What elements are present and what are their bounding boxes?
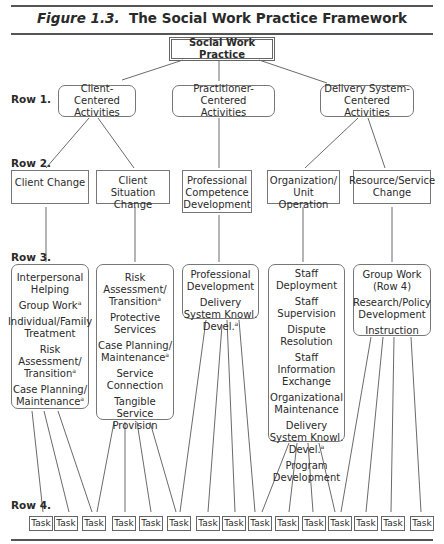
node-line: Delivery System-: [324, 83, 410, 95]
task-box: Task: [196, 516, 220, 531]
activity-item: Staff Deployment: [269, 268, 344, 292]
activity-item: Organizational Maintenance: [269, 392, 344, 416]
node-line: Centered Activities: [321, 95, 413, 119]
node-delivery-system-centered-activities: Delivery System- Centered Activities: [320, 85, 414, 117]
node-line: Client Situation: [97, 175, 169, 199]
row-label-2: Row 2.: [11, 157, 51, 169]
node-resource-service-change: Resource/Service Change: [353, 170, 431, 204]
node-line: Organization/: [270, 175, 337, 187]
activity-item: Case Planning/ Maintenancea: [12, 384, 88, 408]
activity-item: Staff Information Exchange: [269, 352, 344, 388]
activity-item: Service Connection: [97, 368, 173, 392]
node-client-change: Client Change: [11, 170, 89, 204]
node-line: Activities: [201, 107, 247, 119]
activity-item: Protective Services: [97, 312, 173, 336]
activity-item: Individual/Family Treatment: [8, 316, 92, 340]
activity-item: Delivery System Knowl. Devel.a: [269, 420, 344, 456]
node-practitioner-centered-activities: Practitioner-Centered Activities: [172, 85, 275, 117]
activity-item: Case Planning/ Maintenancea: [97, 340, 173, 364]
task-box: Task: [82, 516, 106, 531]
activity-item: Group Worka: [19, 300, 82, 312]
activities-client-situation-change: Risk Assessment/ Transitiona Protective …: [96, 264, 174, 420]
node-organization-unit-operation: Organization/ Unit Operation: [267, 170, 340, 204]
activity-item: Interpersonal Helping: [12, 272, 88, 296]
task-box: Task: [302, 516, 326, 531]
task-box: Task: [381, 516, 405, 531]
activity-item: Dispute Resolution: [269, 324, 344, 348]
activity-item: Group Work (Row 4): [354, 269, 430, 293]
node-line: Activities: [74, 107, 120, 119]
row-label-3: Row 3.: [11, 251, 51, 263]
task-box: Task: [139, 516, 163, 531]
task-box: Task: [328, 516, 352, 531]
task-box: Task: [354, 516, 378, 531]
node-line: Change: [373, 187, 411, 199]
row-label-4: Row 4.: [11, 499, 51, 511]
activities-resource-service-change: Group Work (Row 4) Research/Policy Devel…: [353, 264, 431, 336]
task-box: Task: [248, 516, 272, 531]
node-line: Unit Operation: [268, 187, 339, 211]
activity-item: Staff Supervision: [269, 296, 344, 320]
row-label-1: Row 1.: [11, 93, 51, 105]
task-box: Task: [222, 516, 246, 531]
activity-item: Program Development: [269, 460, 344, 484]
task-box: Task: [29, 516, 53, 531]
root-label: Social Work Practice: [172, 37, 272, 61]
activity-item: Tangible Service Provision: [97, 396, 173, 432]
activity-item: Research/Policy Development: [353, 297, 431, 321]
task-box: Task: [112, 516, 136, 531]
node-line: Practitioner-Centered: [173, 83, 274, 107]
activity-item: Risk Assessment/ Transitiona: [12, 344, 88, 380]
task-box: Task: [275, 516, 299, 531]
node-line: Competence: [185, 187, 248, 199]
task-box: Task: [410, 516, 434, 531]
node-line: Change: [114, 199, 152, 211]
node-line: Client-Centered: [59, 83, 135, 107]
bottom-rule: [11, 539, 433, 541]
task-box: Task: [167, 516, 191, 531]
activities-organization-unit-operation: Staff Deployment Staff Supervision Dispu…: [268, 264, 345, 442]
node-line: Resource/Service: [349, 175, 435, 187]
activity-item: Instruction: [365, 325, 419, 337]
node-professional-competence-development: Professional Competence Development: [182, 170, 252, 213]
task-box: Task: [54, 516, 78, 531]
node-line: Professional: [187, 175, 247, 187]
activities-professional-competence: Professional Development Delivery System…: [182, 264, 259, 319]
activity-item: Professional Development: [183, 269, 258, 293]
node-line: Development: [183, 199, 250, 211]
node-client-situation-change: Client Situation Change: [96, 170, 170, 204]
node-client-centered-activities: Client-Centered Activities: [58, 85, 136, 117]
activity-item: Risk Assessment/ Transitiona: [97, 272, 173, 308]
root-node-social-work-practice: Social Work Practice: [171, 39, 273, 59]
activities-client-change: Interpersonal Helping Group Worka Indivi…: [11, 264, 89, 409]
node-line: Client Change: [15, 177, 85, 189]
activity-item: Delivery System Knowl. Devel.a: [183, 297, 258, 333]
